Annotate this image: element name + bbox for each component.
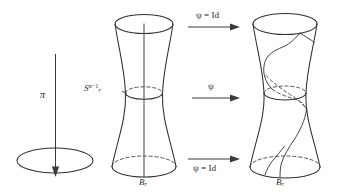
sphere-label: Sn−1r [84,83,101,94]
right-waist-ellipse-front [264,93,306,100]
middle-arrow-head [230,95,240,102]
right-top-rim-ellipse [253,14,317,35]
ball-label-middle: Br [139,178,147,188]
right-left-silhouette [250,24,264,167]
top-arrow-head [230,24,240,31]
middle-right-silhouette [162,24,176,167]
middle-hourglass-solid-group [112,15,176,178]
right-twisted-fiber-top-strand [300,33,315,43]
middle-arrow-label: ψ [208,82,214,91]
projection-map-label: π [40,90,45,100]
bottom-arrow-group [188,156,240,163]
right-twisted-fiber-hidden-cross [266,76,307,112]
ball-label-right: Br [276,178,284,188]
middle-left-silhouette [112,24,126,167]
right-bottom-rim-ellipse-front [250,167,320,178]
right-bottom-rim-ellipse-back [250,156,320,167]
right-twisted-fiber-upper [264,33,300,90]
top-arrow-group [188,24,240,31]
top-arrow-label: ψ = Id [196,11,219,20]
bottom-arrow-label: ψ = Id [193,164,216,173]
projection-arrow-group [52,54,59,177]
ball-label-middle-sub: r [145,180,148,187]
sphere-label-sup: n−1 [89,82,99,89]
projection-arrow-head [52,167,59,178]
figure-canvas: π Sn−1r Br Br ψ = Id ψ ψ = Id [0,0,344,196]
ball-label-right-sub: r [282,180,285,187]
right-twisted-fiber-lower-strand [265,146,285,175]
right-twisted-fiber-lower [280,110,307,177]
bottom-arrow-head [230,156,240,163]
diagram-svg [0,0,344,196]
sphere-label-sub: r [99,86,102,93]
right-twisted-fiber-hidden-upper [273,90,306,109]
right-right-silhouette [306,24,320,167]
middle-arrow-group [192,95,240,102]
right-hourglass-solid-group [250,14,320,179]
